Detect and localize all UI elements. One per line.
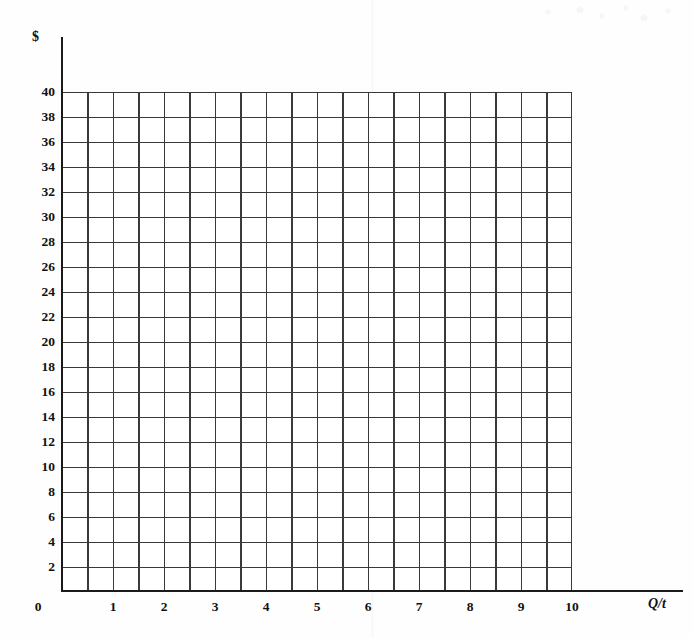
y-axis-line xyxy=(61,37,63,592)
y-tick-label: 6 xyxy=(9,510,55,524)
y-tick-label: 34 xyxy=(9,160,55,174)
x-tick-label: 7 xyxy=(399,600,439,614)
y-tick-label: 18 xyxy=(9,360,55,374)
y-tick-label: 12 xyxy=(9,435,55,449)
y-tick-label: 36 xyxy=(9,135,55,149)
y-tick-label: 26 xyxy=(9,260,55,274)
x-tick-label: 9 xyxy=(501,600,541,614)
y-axis-title: $ xyxy=(32,30,39,44)
y-tick-label: 20 xyxy=(9,335,55,349)
x-tick-label: 5 xyxy=(297,600,337,614)
origin-tick-label: 0 xyxy=(28,600,48,614)
x-tick-label: 1 xyxy=(93,600,133,614)
y-tick-label: 32 xyxy=(9,185,55,199)
y-tick-label: 4 xyxy=(9,535,55,549)
y-tick-label: 28 xyxy=(9,235,55,249)
grid-right-edge xyxy=(571,92,572,592)
x-tick-label: 10 xyxy=(552,600,592,614)
x-axis-line xyxy=(61,590,683,592)
x-tick-label: 4 xyxy=(246,600,286,614)
y-tick-label: 2 xyxy=(9,560,55,574)
graph-paper-plot: $ Q/t 0 40383634323028262422201816141210… xyxy=(0,0,693,638)
y-tick-label: 30 xyxy=(9,210,55,224)
y-tick-label: 8 xyxy=(9,485,55,499)
grid-area xyxy=(62,92,572,592)
y-tick-label: 14 xyxy=(9,410,55,424)
y-tick-label: 38 xyxy=(9,110,55,124)
x-tick-label: 6 xyxy=(348,600,388,614)
y-tick-label: 16 xyxy=(9,385,55,399)
x-tick-label: 3 xyxy=(195,600,235,614)
x-tick-label: 2 xyxy=(144,600,184,614)
y-tick-label: 22 xyxy=(9,310,55,324)
x-tick-label: 8 xyxy=(450,600,490,614)
y-tick-label: 24 xyxy=(9,285,55,299)
x-axis-title: Q/t xyxy=(648,597,666,611)
y-tick-label: 10 xyxy=(9,460,55,474)
y-tick-label: 40 xyxy=(9,85,55,99)
